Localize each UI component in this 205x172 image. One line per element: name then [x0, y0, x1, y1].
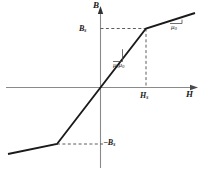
- annotation-linear-slope: μrμ0: [113, 62, 124, 70]
- magnetization-curve: [8, 13, 195, 154]
- mu-r-sub2: 0: [122, 64, 124, 69]
- tick-label-h-saturation: Hs: [140, 92, 148, 101]
- tick-label-b-saturation-negative: −Bs: [103, 139, 115, 148]
- y-axis-label: B: [93, 1, 99, 10]
- tick-negb-sub: s: [113, 141, 115, 147]
- tick-b-sub: s: [84, 27, 86, 33]
- tick-label-b-saturation: Bs: [79, 25, 86, 34]
- tick-h-sub: s: [146, 94, 148, 100]
- mu-0-sub: 0: [175, 26, 177, 31]
- annotation-saturated-slope: μ0: [171, 24, 177, 32]
- x-axis-label: H: [186, 90, 193, 99]
- bh-curve-figure: B H Bs Hs −Bs μrμ0 μ0: [0, 0, 205, 172]
